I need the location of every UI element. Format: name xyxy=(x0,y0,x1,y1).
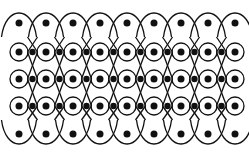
dot-markers xyxy=(16,20,239,138)
lattice-figure xyxy=(0,0,249,161)
